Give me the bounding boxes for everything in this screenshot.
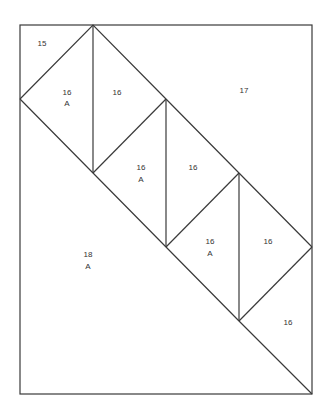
piece-number: 16 — [63, 88, 72, 97]
piece-16a-3: 16 A — [206, 237, 215, 258]
piece-number: 16 — [137, 163, 146, 172]
piece-16-1: 16 — [113, 88, 122, 97]
piece-17: 17 — [240, 86, 249, 95]
piece-number: 15 — [38, 39, 47, 48]
piece-sub-label: A — [64, 99, 70, 108]
piece-sub-label: A — [207, 249, 213, 258]
piece-sub-label: A — [138, 175, 144, 184]
piece-16-2: 16 — [189, 163, 198, 172]
piece-number: 16 — [284, 318, 293, 327]
piece-number: 16 — [264, 237, 273, 246]
cross-diagonal-1 — [93, 99, 166, 173]
piece-number: 17 — [240, 86, 249, 95]
piece-number: 18 — [84, 250, 93, 259]
piece-16-3: 16 — [264, 237, 273, 246]
piece-number: 16 — [113, 88, 122, 97]
piece-18a: 18 A — [84, 250, 93, 271]
cross-diagonal-3 — [239, 247, 312, 321]
cross-diagonal-2 — [166, 173, 239, 247]
piece-16a-1: 16 A — [63, 88, 72, 108]
piece-16a-2: 16 A — [137, 163, 146, 184]
piece-number: 16 — [189, 163, 198, 172]
piece-sub-label: A — [85, 262, 91, 271]
piece-15: 15 — [38, 39, 47, 48]
piece-16-4: 16 — [284, 318, 293, 327]
quilt-block-diagram: 15 16 A 16 17 16 A 16 18 A 16 A 16 16 — [0, 0, 329, 409]
piece-number: 16 — [206, 237, 215, 246]
